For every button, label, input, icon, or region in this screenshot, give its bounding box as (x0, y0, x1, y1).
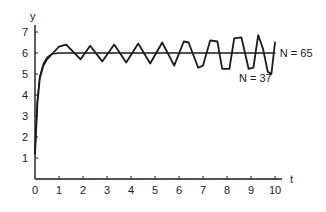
x-tick-label: 2 (80, 184, 86, 196)
annotation-label: N = 37 (239, 72, 272, 84)
x-tick-label: 0 (32, 184, 38, 196)
x-tick-label: 10 (269, 184, 281, 196)
annotation-label: N = 65 (280, 47, 313, 59)
x-tick-label: 9 (248, 184, 254, 196)
axes: t y (30, 10, 293, 185)
y-axis-label: y (30, 10, 36, 22)
chart: t y 012345678910 1234567 N = 65N = 37 (0, 0, 326, 212)
x-tick-label: 6 (176, 184, 182, 196)
x-tick-label: 1 (56, 184, 62, 196)
x-tick-label: 4 (128, 184, 134, 196)
series-line-n65 (35, 53, 275, 154)
y-tick-label: 1 (22, 152, 28, 164)
y-tick-label: 7 (22, 26, 28, 38)
y-tick-label: 4 (22, 89, 28, 101)
series-group (35, 35, 275, 154)
y-tick-label: 3 (22, 110, 28, 122)
x-axis-label: t (290, 173, 293, 185)
x-tick-label: 8 (224, 184, 230, 196)
y-tick-label: 6 (22, 47, 28, 59)
x-tick-label: 3 (104, 184, 110, 196)
y-tick-label: 2 (22, 131, 28, 143)
x-tick-label: 5 (152, 184, 158, 196)
x-tick-label: 7 (200, 184, 206, 196)
y-tick-label: 5 (22, 68, 28, 80)
